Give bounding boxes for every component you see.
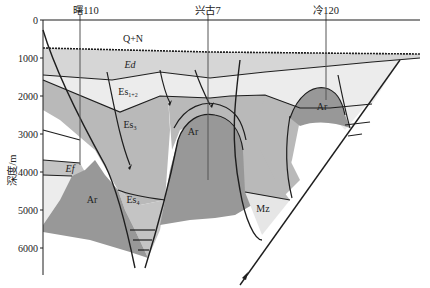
- y-tick-1000: 1000: [18, 53, 38, 64]
- y-axis: 0 1000 2000 3000 4000 5000 6000 深度/m: [6, 15, 43, 275]
- label-ar-central: Ar: [188, 126, 199, 137]
- y-axis-label: 深度/m: [6, 154, 18, 185]
- well-labels: 曙110 兴古7 冷120: [73, 4, 339, 16]
- y-tick-2000: 2000: [18, 91, 38, 102]
- label-ef: Ef: [65, 163, 76, 174]
- well-label-shu110: 曙110: [73, 5, 98, 16]
- y-tick-3000: 3000: [18, 129, 38, 140]
- y-tick-6000: 6000: [18, 243, 38, 254]
- well-label-xinggu7: 兴古7: [195, 4, 220, 16]
- y-tick-4000: 4000: [18, 167, 38, 178]
- label-ar-right: Ar: [317, 101, 328, 112]
- right-strip-2: [348, 134, 362, 136]
- label-mz: Mz: [256, 203, 270, 214]
- label-ed: Ed: [123, 59, 136, 70]
- label-qn: Q+N: [123, 33, 143, 44]
- y-tick-0: 0: [33, 15, 38, 26]
- y-tick-5000: 5000: [18, 205, 38, 216]
- well-label-leng120: 冷120: [313, 4, 339, 16]
- label-ar-left: Ar: [87, 194, 98, 205]
- cross-section-diagram: 0 1000 2000 3000 4000 5000 6000 深度/m 曙11…: [0, 0, 430, 288]
